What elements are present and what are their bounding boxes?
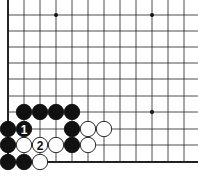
black-stone[interactable]: [16, 154, 31, 169]
black-stone[interactable]: [0, 154, 15, 169]
go-board[interactable]: 12: [0, 0, 198, 178]
black-stone[interactable]: [0, 121, 15, 136]
white-stone[interactable]: [16, 137, 31, 152]
white-stone[interactable]: [96, 121, 111, 136]
black-stone[interactable]: [0, 137, 15, 152]
star-point-icon: [54, 13, 58, 17]
star-point-icon: [150, 110, 154, 114]
black-stone[interactable]: [16, 104, 31, 119]
black-stone[interactable]: [64, 121, 79, 136]
black-stone[interactable]: [64, 137, 79, 152]
black-stone[interactable]: [64, 104, 79, 119]
black-stone[interactable]: [48, 104, 63, 119]
move-number-label: 1: [21, 123, 28, 137]
black-stone[interactable]: [32, 104, 47, 119]
white-stone[interactable]: [48, 137, 63, 152]
white-stone[interactable]: [80, 121, 95, 136]
star-point-icon: [150, 13, 154, 17]
white-stone[interactable]: [80, 137, 95, 152]
white-stone[interactable]: [32, 154, 47, 169]
move-number-label: 2: [37, 139, 44, 153]
